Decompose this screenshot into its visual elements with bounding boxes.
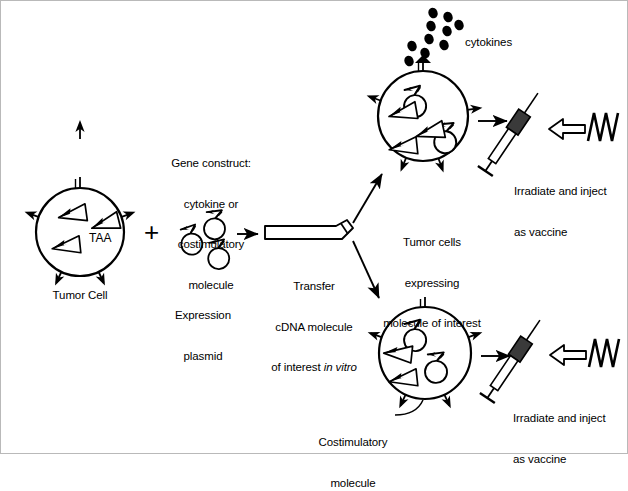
transfer-pipette — [265, 220, 353, 239]
gene-construct-line-2: cytokine or — [149, 198, 273, 212]
radiation-zigzag-top — [549, 113, 618, 141]
taa-label: TAA — [89, 231, 111, 245]
in-vitro-italic: in vitro — [324, 361, 357, 373]
irradiate-bottom-line-1: Irradiate and inject — [513, 412, 628, 426]
irradiate-bottom-line-2: as vaccine — [513, 453, 628, 467]
expression-plasmid-label: Expression plasmid — [153, 282, 253, 377]
irradiate-inject-bottom-label: Irradiate and inject as vaccine — [513, 385, 628, 480]
gene-construct-line-3: costimulatory — [149, 238, 273, 252]
tumor-cells-expressing-line-2: expressing — [365, 277, 499, 291]
tumor-cell-label: Tumor Cell — [25, 289, 135, 303]
irradiate-top-line-1: Irradiate and inject — [514, 185, 628, 199]
expression-plasmid-line-1: Expression — [153, 309, 253, 323]
expression-plasmid-line-2: plasmid — [153, 350, 253, 364]
tumor-cells-expressing-line-3: molecule of interest — [365, 317, 499, 331]
costimulatory-line-1: Costimulatory — [305, 436, 401, 450]
tumor-cells-expressing-line-1: Tumor cells — [365, 236, 499, 250]
irradiate-inject-top-label: Irradiate and inject as vaccine — [514, 158, 628, 253]
gene-construct-line-1: Gene construct: — [149, 157, 273, 171]
transfer-line-3: of interest in vitro — [244, 361, 384, 375]
cytokine-dots — [403, 6, 465, 67]
tumor-cells-expressing-label: Tumor cells expressing molecule of inter… — [365, 209, 499, 344]
transfer-line-1: Transfer — [244, 280, 384, 294]
transfer-line-3-text: of interest — [271, 361, 324, 373]
upper-transfected-tumor-cell — [365, 55, 483, 174]
radiation-zigzag-bottom — [550, 339, 619, 367]
transfer-line-2: cDNA molecule — [244, 321, 384, 335]
costimulatory-molecule-label: Costimulatory molecule — [305, 409, 401, 491]
transfer-label: Transfer cDNA molecule of interest in vi… — [244, 253, 384, 388]
tumor-cell — [23, 120, 137, 287]
irradiate-top-line-2: as vaccine — [514, 226, 628, 240]
cytokines-label: cytokines — [465, 36, 545, 50]
costimulatory-line-2: molecule — [305, 477, 401, 491]
